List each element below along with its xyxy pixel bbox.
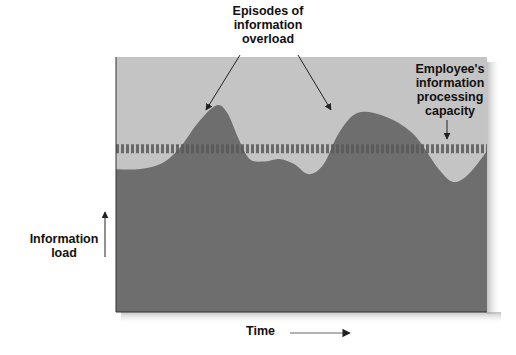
capacity-label: Employee's information processing capaci… — [398, 62, 502, 118]
episodes-label-line: overload — [198, 32, 338, 46]
episodes-label: Episodes of information overload — [198, 4, 338, 46]
capacity-label-line: information — [398, 76, 502, 90]
capacity-label-line: capacity — [398, 104, 502, 118]
episodes-label-line: information — [198, 18, 338, 32]
y-axis-label-line: load — [22, 246, 106, 260]
x-axis-label: Time — [246, 324, 296, 338]
episodes-label-line: Episodes of — [198, 4, 338, 18]
capacity-label-line: processing — [398, 90, 502, 104]
y-axis-label: Information load — [22, 232, 106, 260]
y-axis-label-line: Information — [22, 232, 106, 246]
panel-shadow-bottom — [121, 312, 501, 324]
overload-diagram — [0, 0, 516, 355]
capacity-label-line: Employee's — [398, 62, 502, 76]
